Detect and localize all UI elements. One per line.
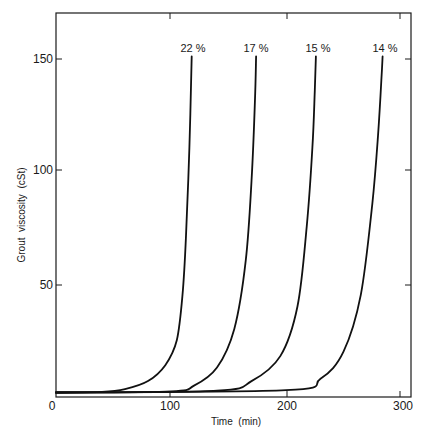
y-tick-label-100: 100 bbox=[33, 163, 53, 177]
y-axis-title: Grout viscosity (cSt) bbox=[16, 167, 27, 262]
curve-14pct bbox=[56, 57, 383, 393]
curve-22pct bbox=[56, 57, 192, 393]
curve-label-14: 14 % bbox=[372, 42, 397, 54]
y-tick-label-50: 50 bbox=[40, 278, 54, 292]
curve-label-15: 15 % bbox=[305, 42, 330, 54]
curve-label-17: 17 % bbox=[243, 42, 268, 54]
x-tick-label-0: 0 bbox=[49, 399, 56, 413]
curve-label-22: 22 % bbox=[180, 42, 205, 54]
x-ticks bbox=[170, 13, 400, 397]
x-tick-label-100: 100 bbox=[160, 399, 180, 413]
chart: 50 100 150 0 100 200 300 Time (min) Grou… bbox=[0, 0, 429, 439]
x-tick-label-300: 300 bbox=[393, 399, 413, 413]
curve-17pct bbox=[56, 57, 256, 393]
data-curves bbox=[56, 57, 383, 393]
x-axis-title: Time (min) bbox=[211, 416, 261, 427]
y-tick-label-150: 150 bbox=[33, 52, 53, 66]
plot-frame bbox=[56, 13, 411, 397]
y-ticks bbox=[56, 59, 411, 285]
x-tick-label-200: 200 bbox=[277, 399, 297, 413]
